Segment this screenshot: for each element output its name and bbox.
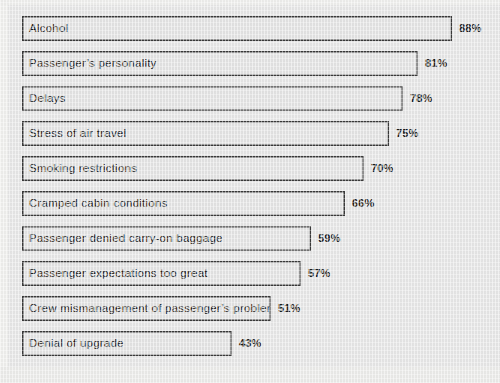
bar-row: Passenger’s personality81% xyxy=(22,51,447,76)
bar-rect: Passenger expectations too great xyxy=(22,261,301,286)
bar-category-label: Alcohol xyxy=(23,22,68,35)
bar-value-label: 88% xyxy=(459,22,481,35)
bar-rect: Passenger’s personality xyxy=(22,51,418,76)
bar-value-label: 75% xyxy=(396,127,418,140)
bar-row: Cramped cabin conditions66% xyxy=(22,191,374,216)
bar-row: Delays78% xyxy=(22,86,432,111)
bar-row: Smoking restrictions70% xyxy=(22,156,393,181)
bar-rect: Alcohol xyxy=(22,16,452,41)
bar-row: Passenger expectations too great57% xyxy=(22,261,330,286)
bar-row: Alcohol88% xyxy=(22,16,481,41)
horizontal-bar-chart: Alcohol88%Passenger’s personality81%Dela… xyxy=(0,0,500,383)
bar-value-label: 59% xyxy=(318,232,340,245)
bar-row: Denial of upgrade43% xyxy=(22,331,261,356)
bar-rect: Crew mismanagement of passenger’s proble… xyxy=(22,296,271,321)
bar-row: Stress of air travel75% xyxy=(22,121,418,146)
bar-rect: Stress of air travel xyxy=(22,121,389,146)
bar-category-label: Delays xyxy=(23,92,66,105)
bar-rect: Passenger denied carry-on baggage xyxy=(22,226,311,251)
bar-rect: Smoking restrictions xyxy=(22,156,364,181)
bar-category-label: Crew mismanagement of passenger’s proble… xyxy=(23,302,271,315)
bar-category-label: Passenger denied carry-on baggage xyxy=(23,232,223,245)
bar-value-label: 43% xyxy=(239,337,261,350)
bar-category-label: Passenger expectations too great xyxy=(23,267,208,280)
bar-value-label: 70% xyxy=(371,162,393,175)
bar-value-label: 51% xyxy=(278,302,300,315)
bar-category-label: Cramped cabin conditions xyxy=(23,197,167,210)
bar-row: Passenger denied carry-on baggage59% xyxy=(22,226,340,251)
bar-rect: Delays xyxy=(22,86,403,111)
bar-value-label: 81% xyxy=(425,57,447,70)
bar-category-label: Passenger’s personality xyxy=(23,57,157,70)
bar-rect: Denial of upgrade xyxy=(22,331,232,356)
bar-value-label: 57% xyxy=(308,267,330,280)
bar-category-label: Denial of upgrade xyxy=(23,337,124,350)
bar-category-label: Stress of air travel xyxy=(23,127,126,140)
bar-value-label: 66% xyxy=(352,197,374,210)
bar-rect: Cramped cabin conditions xyxy=(22,191,345,216)
bar-row: Crew mismanagement of passenger’s proble… xyxy=(22,296,300,321)
bar-category-label: Smoking restrictions xyxy=(23,162,137,175)
scanned-chart-page: Alcohol88%Passenger’s personality81%Dela… xyxy=(0,0,500,383)
bar-value-label: 78% xyxy=(410,92,432,105)
